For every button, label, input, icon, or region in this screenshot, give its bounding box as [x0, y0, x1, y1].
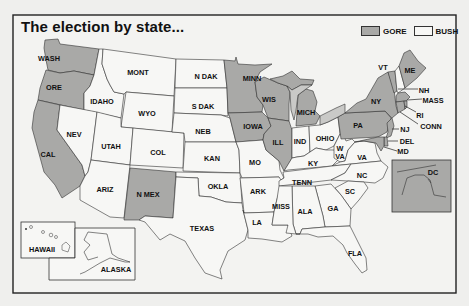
state-label-minn: MINN [243, 74, 262, 83]
state-label-fla: FLA [348, 249, 362, 258]
state-label-me: ME [405, 66, 416, 75]
state-label-mich: MICH [297, 108, 316, 117]
state-label-sc: SC [345, 187, 355, 196]
state-label-nev: NEV [66, 130, 81, 139]
state-label-wyo: WYO [138, 109, 155, 118]
state-label-la: LA [252, 218, 262, 227]
legend-swatch-bush [414, 26, 433, 36]
state-label-ore: ORE [46, 83, 62, 92]
state-label-hawaii: HAWAII [29, 245, 55, 254]
state-label-ariz: ARIZ [96, 185, 113, 194]
state-label-alaska: ALASKA [101, 265, 131, 274]
state-label-idaho: IDAHO [90, 97, 114, 106]
legend-swatch-gore [361, 26, 380, 36]
state-label-miss: MISS [272, 202, 290, 211]
state-label-nj: NJ [400, 125, 409, 134]
state-label-ndak: N DAK [194, 72, 217, 81]
dc-inset [392, 160, 451, 212]
state-label-wis: WIS [262, 95, 276, 104]
state-label-ark: ARK [250, 187, 266, 196]
state-label-cal: CAL [41, 150, 56, 159]
map-title: The election by state... [21, 18, 184, 35]
state-label-col: COL [150, 148, 165, 157]
state-label-vt: VT [378, 63, 387, 72]
state-label-ill: ILL [273, 138, 284, 147]
state-label-okla: OKLA [208, 182, 229, 191]
state-label-ind: IND [294, 137, 307, 146]
state-label-mont: MONT [127, 68, 148, 77]
state-label-ri: RI [416, 111, 423, 120]
state-label-tenn: TENN [292, 178, 312, 187]
state-label-ga: GA [328, 204, 339, 213]
legend: GORE BUSH [361, 26, 458, 36]
state-label-va: VA [357, 153, 367, 162]
state-label-md: MD [397, 147, 408, 156]
state-label-mo: MO [249, 158, 261, 167]
state-label-ohio: OHIO [316, 134, 335, 143]
state-label-nmex: N MEX [136, 190, 159, 199]
state-label-wash: WASH [38, 54, 60, 63]
state-label-kan: KAN [204, 154, 220, 163]
legend-label-bush: BUSH [436, 27, 459, 36]
state-label-iowa: IOWA [243, 122, 262, 131]
state-del[interactable] [384, 137, 388, 146]
state-label-ny: NY [371, 97, 381, 106]
state-label-ky: KY [308, 159, 318, 168]
state-label-nc: NC [357, 171, 368, 180]
state-label-sdak: S DAK [192, 102, 215, 111]
state-label-nh: NH [419, 86, 430, 95]
state-label-texas: TEXAS [190, 224, 214, 233]
state-label-del: DEL [400, 137, 415, 146]
state-label-neb: NEB [195, 127, 210, 136]
state-label-utah: UTAH [101, 142, 121, 151]
state-label-conn: CONN [420, 122, 442, 131]
state-label-ala: ALA [298, 207, 313, 216]
state-label-wva: W VA [335, 145, 345, 161]
state-label-pa: PA [353, 121, 363, 130]
state-label-mass: MASS [422, 96, 443, 105]
legend-label-gore: GORE [383, 27, 407, 36]
state-label-dc: DC [428, 168, 439, 177]
